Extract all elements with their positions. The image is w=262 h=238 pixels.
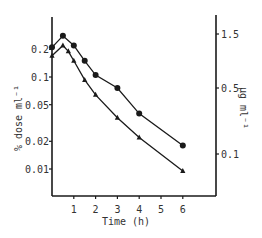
y-left-tick-label: 0.05 [25,100,49,111]
x-tick-label: 6 [180,204,186,215]
data-series [49,33,186,173]
series-line-triangles [52,45,183,171]
y-axis-right-title: µg ml⁻¹ [238,87,249,129]
axis-labels: 1234560.20.10.050.020.011.50.50.1Time (h… [13,29,249,227]
chart: 1234560.20.10.050.020.011.50.50.1Time (h… [0,0,262,238]
x-tick-label: 3 [114,204,120,215]
y-left-tick-label: 0.2 [31,44,49,55]
y-left-tick-label: 0.1 [31,72,49,83]
triangle-marker [60,42,65,47]
x-tick-label: 5 [158,204,164,215]
circle-marker [93,72,99,78]
circle-marker [180,143,186,149]
circle-marker [49,44,55,50]
x-tick-label: 4 [136,204,142,215]
circle-marker [60,33,66,39]
circle-marker [82,58,88,64]
y-right-tick-label: 0.5 [221,83,239,94]
triangle-marker [180,168,185,173]
circle-marker [114,85,120,91]
circle-marker [71,42,77,48]
y-left-tick-label: 0.02 [25,136,49,147]
y-left-tick-label: 0.01 [25,164,49,175]
circle-marker [136,111,142,117]
x-tick-label: 1 [71,204,77,215]
x-axis-title: Time (h) [102,216,150,227]
x-tick-label: 2 [93,204,99,215]
y-axis-left-title: % dose ml⁻¹ [13,85,24,151]
y-right-tick-label: 0.1 [221,149,239,160]
y-right-tick-label: 1.5 [221,29,239,40]
